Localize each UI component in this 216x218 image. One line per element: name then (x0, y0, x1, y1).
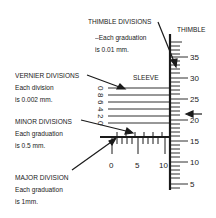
thimble-num-35: 35 (190, 53, 199, 62)
major-division-arrow (72, 140, 114, 170)
thimble-num-20: 20 (190, 116, 199, 125)
svg-text:8: 8 (96, 93, 105, 98)
minor-divisions-title: MINOR DIVISIONS (15, 117, 72, 127)
vernier-divisions-line2: is 0.002 mm. (15, 95, 53, 105)
vernier-divisions-title: VERNIER DIVISIONS (15, 71, 79, 81)
vernier-divisions-line1: Each division (15, 83, 54, 93)
sleeve-num-10: 10 (159, 161, 168, 170)
svg-text:2: 2 (96, 114, 105, 119)
callout-arrows (72, 22, 202, 170)
thimble-num-30: 30 (190, 74, 199, 83)
svg-text:0: 0 (96, 121, 105, 126)
major-division-line1: Each graduation (15, 185, 63, 195)
thimble-num-15: 15 (190, 137, 199, 146)
thimble-divisions-arrow (158, 22, 175, 64)
svg-text:0: 0 (96, 86, 105, 91)
svg-text:4: 4 (96, 107, 105, 112)
thimble-divisions-line1: –Each graduation (95, 33, 146, 43)
minor-divisions-line2: is 0.5 mm. (15, 141, 45, 151)
major-division-line2: is 1mm. (15, 197, 38, 207)
thimble-divisions-title: THIMBLE DIVISIONS (88, 17, 151, 27)
vernier-numbers: 0 8 6 4 2 0 (96, 86, 105, 126)
sleeve-num-5: 5 (135, 161, 140, 170)
sleeve-label: SLEEVE (133, 73, 159, 83)
thimble-divisions-line2: is 0.01 mm. (95, 45, 129, 55)
arrowhead (171, 59, 177, 67)
thimble-num-5: 5 (190, 180, 195, 189)
thimble-num-25: 25 (190, 95, 199, 104)
sleeve-ticks (112, 132, 165, 154)
sleeve-num-0: 0 (109, 161, 114, 170)
thimble-ticks (170, 42, 188, 188)
thimble-num-10: 10 (190, 158, 199, 167)
thimble-label: THIMBLE (177, 25, 205, 35)
minor-divisions-line1: Each graduation (15, 129, 63, 139)
major-division-title: MAJOR DIVISION (15, 173, 69, 183)
vernier-lines (108, 88, 170, 123)
svg-text:6: 6 (96, 100, 105, 105)
